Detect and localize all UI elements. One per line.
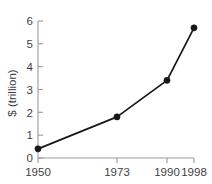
y-tick-label-5: 5 [27,38,33,50]
data-point-1998 [191,25,197,31]
x-tick-label-1950: 1950 [25,166,51,178]
data-point-1973 [114,114,120,120]
y-axis-title: $ (trillion) [6,69,18,116]
y-tick-label-1: 1 [27,129,33,141]
y-tick-label-0: 0 [27,152,33,164]
y-tick-label-4: 4 [27,61,34,73]
y-tick-label-2: 2 [27,107,33,119]
x-tick-label-1998: 1998 [181,166,207,178]
data-point-1950 [35,146,41,152]
y-tick-label-3: 3 [27,84,33,96]
data-point-1990 [164,77,170,83]
y-tick-label-6: 6 [27,15,33,27]
x-tick-label-1973: 1973 [104,166,130,178]
x-tick-label-1990: 1990 [154,166,180,178]
line-chart: $ (trillion) 0 1 2 3 4 5 6 [0,0,212,184]
chart-figure: $ (trillion) 0 1 2 3 4 5 6 [0,0,212,184]
